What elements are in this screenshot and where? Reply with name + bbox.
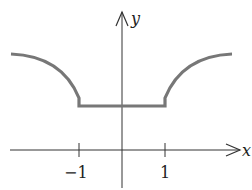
tick-label-neg1: −1	[64, 163, 88, 182]
tick-label-pos1: 1	[160, 163, 170, 182]
x-axis-label: x	[242, 141, 251, 160]
y-axis-label: y	[130, 9, 141, 28]
function-graph: y x −1 1	[0, 0, 252, 190]
